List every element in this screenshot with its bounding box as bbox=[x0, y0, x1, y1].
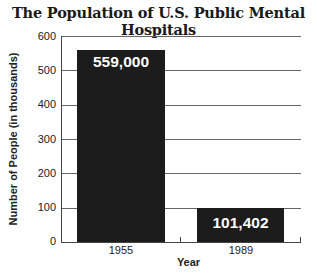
bar-1955: 559,000 bbox=[77, 50, 165, 242]
x-tick-mark bbox=[180, 237, 181, 242]
x-axis bbox=[61, 242, 301, 243]
x-tick-mark bbox=[300, 237, 301, 242]
bar-value-label: 559,000 bbox=[77, 53, 165, 71]
bar-value-label: 101,402 bbox=[197, 214, 284, 232]
y-tick-600: 600 bbox=[26, 30, 56, 42]
y-axis bbox=[61, 36, 62, 243]
y-tick-500: 500 bbox=[26, 64, 56, 76]
x-axis-title: Year bbox=[0, 256, 317, 268]
y-axis-title: Number of People (in thousands) bbox=[7, 53, 19, 226]
y-tick-100: 100 bbox=[26, 201, 56, 213]
gridline bbox=[61, 36, 301, 37]
x-tick-1989: 1989 bbox=[211, 244, 271, 256]
x-tick-1955: 1955 bbox=[91, 244, 151, 256]
bar-1989: 101,402 bbox=[197, 208, 284, 242]
y-tick-400: 400 bbox=[26, 98, 56, 110]
y-tick-300: 300 bbox=[26, 133, 56, 145]
plot-area: 559,000 101,402 bbox=[61, 36, 301, 242]
y-tick-0: 0 bbox=[26, 235, 56, 247]
y-tick-200: 200 bbox=[26, 167, 56, 179]
